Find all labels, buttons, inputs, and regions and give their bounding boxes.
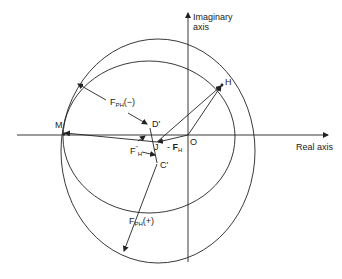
point-label-d-prime: D': [152, 119, 160, 129]
real-axis-label: Real axis: [296, 142, 333, 152]
point-h: [221, 84, 224, 87]
inner-circle: [63, 61, 235, 213]
point-label-o: O: [190, 137, 197, 147]
harker-diagram: [0, 0, 342, 279]
pointer-fph-minus-to-d: [128, 113, 147, 124]
point-label-c-prime: C': [160, 160, 168, 170]
vector-fph-plus: [124, 164, 157, 251]
point-m: [63, 133, 66, 136]
label-fph-plus: FPH(+): [129, 216, 154, 229]
pointer-fph-minus-to-outer: [78, 84, 106, 100]
point-label-m: M: [55, 120, 63, 130]
label-neg-fh: - FH: [167, 142, 182, 155]
point-label-h: H: [225, 77, 232, 87]
label-fph-minus: FPH(−): [110, 97, 135, 110]
imaginary-axis-label: Imaginary axis: [193, 12, 233, 32]
vector-neg-fh: [158, 135, 188, 142]
label-fh-double-prime: F"H: [130, 143, 142, 159]
point-label-j: J: [154, 142, 159, 152]
pointer-fh-double-prime-to-j: [142, 152, 155, 155]
